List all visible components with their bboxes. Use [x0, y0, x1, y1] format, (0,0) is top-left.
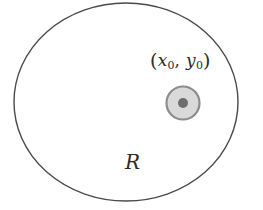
source-center-dot: [178, 98, 188, 108]
y-subscript: 0: [196, 59, 203, 72]
point-coordinate-label: (x0, y0): [150, 51, 211, 71]
close-paren: ): [203, 49, 211, 71]
figure-canvas: [0, 0, 263, 210]
geometry-figure: (x0, y0) R: [0, 0, 263, 210]
y-symbol: y: [186, 50, 196, 70]
x-symbol: x: [158, 50, 168, 70]
open-paren: (: [150, 49, 158, 71]
x-subscript: 0: [168, 59, 175, 72]
region-label: R: [125, 152, 140, 172]
coordinate-comma: ,: [175, 50, 181, 70]
